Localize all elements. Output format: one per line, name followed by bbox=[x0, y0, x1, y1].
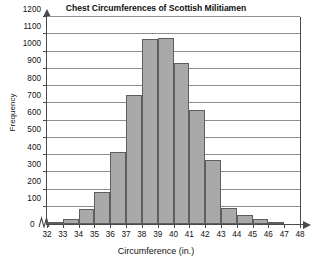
histogram-bar bbox=[174, 63, 190, 224]
histogram-bar bbox=[268, 222, 284, 224]
x-tick-label: 36 bbox=[106, 230, 115, 239]
x-tick-mark bbox=[126, 224, 127, 228]
histogram-bar bbox=[237, 215, 253, 224]
x-tick-mark bbox=[47, 224, 48, 228]
histogram-bar bbox=[189, 110, 205, 224]
x-tick-label: 45 bbox=[248, 230, 257, 239]
x-tick-label: 32 bbox=[42, 230, 51, 239]
histogram-bar bbox=[158, 38, 174, 224]
histogram-bar bbox=[79, 209, 95, 224]
y-tick-label: 1100 bbox=[23, 21, 41, 30]
x-axis-label: Circumference (in.) bbox=[0, 246, 312, 256]
y-tick-label: 1000 bbox=[23, 39, 41, 48]
x-tick-label: 44 bbox=[232, 230, 241, 239]
x-tick-mark bbox=[189, 224, 190, 228]
x-tick-label: 38 bbox=[137, 230, 146, 239]
x-tick-mark bbox=[174, 224, 175, 228]
x-tick-mark bbox=[253, 224, 254, 228]
x-tick-mark bbox=[268, 224, 269, 228]
x-tick-mark bbox=[205, 224, 206, 228]
x-tick-label: 39 bbox=[153, 230, 162, 239]
y-tick-label: 100 bbox=[27, 194, 41, 203]
x-tick-label: 43 bbox=[216, 230, 225, 239]
histogram-bar bbox=[205, 160, 221, 224]
y-tick-label: 700 bbox=[27, 90, 41, 99]
histogram-bar bbox=[253, 219, 269, 224]
x-tick-label: 35 bbox=[90, 230, 99, 239]
y-tick-label: 900 bbox=[27, 56, 41, 65]
histogram-bar bbox=[94, 192, 110, 224]
y-axis-zero-label: 0 bbox=[30, 220, 35, 229]
y-tick-label: 1200 bbox=[23, 4, 41, 13]
histogram-figure: Chest Circumferences of Scottish Militia… bbox=[0, 0, 312, 265]
x-tick-mark bbox=[221, 224, 222, 228]
histogram-bar bbox=[221, 208, 237, 224]
x-tick-mark bbox=[63, 224, 64, 228]
x-tick-label: 37 bbox=[122, 230, 131, 239]
y-tick-label: 400 bbox=[27, 142, 41, 151]
y-tick-label: 600 bbox=[27, 108, 41, 117]
x-tick-label: 33 bbox=[58, 230, 67, 239]
y-tick-label: 800 bbox=[27, 73, 41, 82]
x-tick-mark bbox=[284, 224, 285, 228]
x-tick-label: 42 bbox=[201, 230, 210, 239]
x-tick-label: 34 bbox=[74, 230, 83, 239]
x-tick-mark bbox=[110, 224, 111, 228]
histogram-bar bbox=[63, 219, 79, 224]
x-tick-mark bbox=[142, 224, 143, 228]
y-tick-label: 300 bbox=[27, 159, 41, 168]
y-tick-label: 200 bbox=[27, 177, 41, 186]
x-tick-mark bbox=[94, 224, 95, 228]
histogram-bar bbox=[126, 95, 142, 224]
x-tick-mark bbox=[79, 224, 80, 228]
histogram-bar bbox=[142, 39, 158, 224]
x-tick-label: 48 bbox=[295, 230, 304, 239]
histogram-bar bbox=[110, 152, 126, 224]
bars-group bbox=[47, 17, 300, 224]
x-tick-label: 46 bbox=[264, 230, 273, 239]
x-tick-label: 40 bbox=[169, 230, 178, 239]
x-tick-mark bbox=[237, 224, 238, 228]
x-tick-mark bbox=[158, 224, 159, 228]
y-axis-label: Frequency bbox=[8, 68, 17, 158]
x-tick-label: 41 bbox=[185, 230, 194, 239]
x-tick-label: 47 bbox=[280, 230, 289, 239]
plot-area: 100200300400500600700800900100011001200 … bbox=[46, 17, 301, 225]
histogram-bar bbox=[47, 222, 63, 224]
y-tick-label: 500 bbox=[27, 125, 41, 134]
x-axis-arrow-icon bbox=[303, 221, 311, 229]
